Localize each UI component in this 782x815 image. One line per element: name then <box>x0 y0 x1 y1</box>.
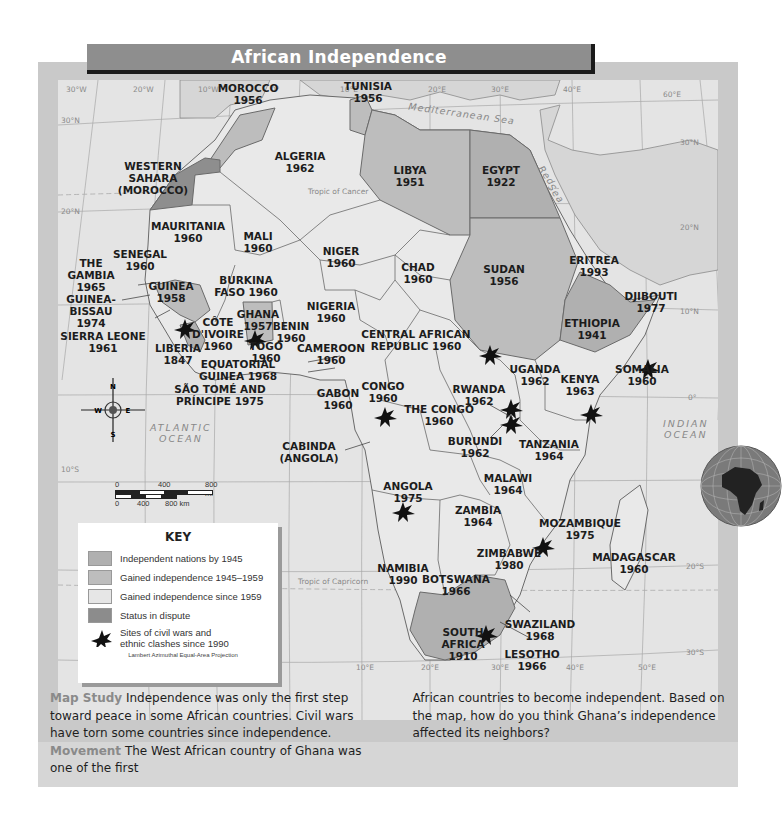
lat-label: 30°N <box>61 116 80 125</box>
caption-question: African countries to become independent.… <box>413 691 725 740</box>
swatch-gained-since-1959 <box>88 589 112 604</box>
label-central-african-republic: CENTRAL AFRICANREPUBLIC 1960 <box>361 328 470 352</box>
key-item: Status in dispute <box>78 606 278 625</box>
key-item: Gained independence 1945–1959 <box>78 568 278 587</box>
label-mauritania: MAURITANIA1960 <box>151 220 225 244</box>
label-angola: ANGOLA1975 <box>383 480 432 504</box>
indian-line-2: OCEAN <box>663 429 709 440</box>
label-mali: MALI1960 <box>243 230 272 254</box>
label-benin: BENIN1960 <box>273 320 310 344</box>
svg-text:S: S <box>110 431 115 439</box>
lat-label: 10°S <box>61 465 79 474</box>
globe-icon <box>700 445 782 527</box>
label-somalia: SOMALIA1960 <box>615 363 669 387</box>
label-uganda: UGANDA1962 <box>510 363 561 387</box>
label-swaziland: SWAZILAND1968 <box>505 618 576 642</box>
lat-label: 30°S <box>686 648 704 657</box>
caption-column-left: Map Study Independence was only the firs… <box>50 690 368 778</box>
label-namibia: NAMIBIA1990 <box>377 562 428 586</box>
label-guinea-bissau: GUINEA-BISSAU1974 <box>66 293 116 329</box>
lon-label: 30°E <box>491 85 509 94</box>
label-equatorial-guinea: EQUATORIALGUINEA 1968 <box>199 358 277 382</box>
label-niger: NIGER1960 <box>323 245 360 269</box>
lat-label: 20°N <box>680 223 699 232</box>
label-eritrea: ERITREA1993 <box>569 254 619 278</box>
label-kenya: KENYA1963 <box>561 373 600 397</box>
map-study-caption: Map Study Independence was only the firs… <box>50 690 730 778</box>
map-title-bar: African Independence <box>87 44 595 74</box>
lon-label: 20°E <box>428 85 446 94</box>
key-item: Gained independence since 1959 <box>78 587 278 606</box>
indian-ocean-label: INDIAN OCEAN <box>663 418 709 440</box>
lon-label: 30°W <box>66 85 87 94</box>
label-cameroon: CAMEROON1960 <box>297 342 365 366</box>
label-guinea: GUINEA1958 <box>148 280 193 304</box>
label-nigeria: NIGERIA1960 <box>307 300 356 324</box>
label-libya: LIBYA1951 <box>394 164 427 188</box>
key-item: Independent nations by 1945 <box>78 549 278 568</box>
lon-label: 10°E <box>356 663 374 672</box>
label-zambia: ZAMBIA1964 <box>455 504 501 528</box>
label-sudan: SUDAN1956 <box>483 263 525 287</box>
label-zimbabwe: ZIMBABWE1980 <box>477 547 541 571</box>
label-cabinda: CABINDA(ANGOLA) <box>280 440 339 464</box>
label-the-gambia: THEGAMBIA1965 <box>67 257 114 293</box>
label-congo: CONGO1960 <box>362 380 405 404</box>
scale-mi-800: 800 mi <box>205 480 225 498</box>
label-chad: CHAD1960 <box>401 261 434 285</box>
map-title: African Independence <box>231 47 447 67</box>
lon-label: 20°W <box>133 85 154 94</box>
lon-label: 50°E <box>638 663 656 672</box>
key-item-label: Status in dispute <box>120 610 190 621</box>
projection-note: Lambert Azimuthal Equal-Area Projection <box>78 652 278 658</box>
label-south-africa: SOUTHAFRICA1910 <box>441 626 484 662</box>
conflict-star-icon <box>90 629 112 647</box>
compass-rose-icon: N S W E <box>78 375 148 449</box>
swatch-independent-by-1945 <box>88 551 112 566</box>
label-lesotho: LESOTHO1966 <box>504 648 559 672</box>
label-tanzania: TANZANIA1964 <box>519 438 579 462</box>
label-egypt: EGYPT1922 <box>482 164 520 188</box>
label-mozambique: MOZAMBIQUE1975 <box>539 517 621 541</box>
scale-bar: 0 400 800 mi 0 400 800 km <box>115 480 225 510</box>
scale-km-400: 400 <box>137 499 150 508</box>
caption-keyword-movement: Movement <box>50 744 121 758</box>
label-burkina-faso: BURKINAFASO 1960 <box>214 274 277 298</box>
key-item-label: Independent nations by 1945 <box>120 553 243 564</box>
key-conflict-label: Sites of civil wars and ethnic clashes s… <box>120 627 229 649</box>
label-ethiopia: ETHIOPIA1941 <box>564 317 620 341</box>
label-western-sahara: WESTERNSAHARA(MOROCCO) <box>118 160 188 196</box>
label-malawi: MALAWI1964 <box>484 472 532 496</box>
label-algeria: ALGERIA1962 <box>275 150 326 174</box>
lon-label: 40°E <box>566 663 584 672</box>
tropic-of-capricorn-label: Tropic of Capricorn <box>298 577 368 586</box>
svg-text:W: W <box>94 407 102 415</box>
key-item-label: Gained independence 1945–1959 <box>120 572 263 583</box>
atlantic-line-1: ATLANTIC <box>150 422 212 433</box>
caption-keyword-map-study: Map Study <box>50 691 122 705</box>
scale-mi-0: 0 <box>115 480 119 489</box>
atlantic-line-2: OCEAN <box>150 433 212 444</box>
label-botswana: BOTSWANA1966 <box>422 573 490 597</box>
scale-km-800: 800 km <box>165 499 190 508</box>
tropic-of-cancer-label: Tropic of Cancer <box>308 187 368 196</box>
lon-label: 60°E <box>663 90 681 99</box>
lat-label: 10°N <box>680 307 699 316</box>
label-rwanda: RWANDA1962 <box>453 383 506 407</box>
lat-label: 0° <box>688 393 697 402</box>
lon-label: 20°E <box>421 663 439 672</box>
label-djibouti: DJIBOUTI1977 <box>624 290 677 314</box>
map-key: KEY Independent nations by 1945 Gained i… <box>78 523 278 683</box>
svg-text:N: N <box>110 383 116 391</box>
lon-label: 10°W <box>198 85 219 94</box>
label-sao-tome: SÃO TOMÉ ANDPRÍNCIPE 1975 <box>174 383 265 407</box>
label-madagascar: MADAGASCAR1960 <box>592 551 676 575</box>
key-item-conflict: Sites of civil wars and ethnic clashes s… <box>78 627 278 649</box>
scale-km-0: 0 <box>115 499 119 508</box>
label-sierra-leone: SIERRA LEONE1961 <box>60 330 145 354</box>
key-title: KEY <box>78 530 278 544</box>
svg-text:E: E <box>126 407 131 415</box>
label-gabon: GABON1960 <box>317 387 359 411</box>
swatch-status-in-dispute <box>88 608 112 623</box>
atlantic-ocean-label: ATLANTIC OCEAN <box>150 422 212 444</box>
